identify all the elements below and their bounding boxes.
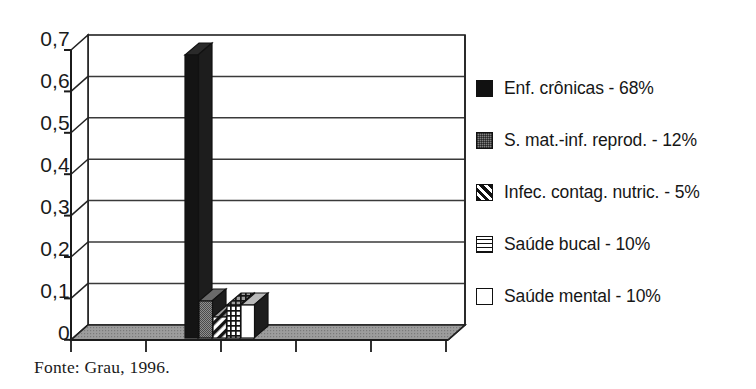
chart-root: 0,7 0,6 0,5 0,4 0,3 0,2 0,1 0 [0,0,756,389]
white-outline-swatch-icon [476,288,493,305]
legend-item-label: Enf. crônicas - 68% [504,78,654,99]
legend-item-label: Saúde bucal - 10% [504,234,650,255]
legend-item-label: S. mat.-inf. reprod. - 12% [504,130,697,151]
legend-item: Saúde mental - 10% [476,270,750,322]
legend-item: Enf. crônicas - 68% [476,62,750,114]
x-axis-ticks [71,340,446,352]
plot-floor [71,325,465,340]
legend-item: Saúde bucal - 10% [476,218,750,270]
plot-back-wall [88,35,465,325]
chart-legend: Enf. crônicas - 68% S. mat.-inf. reprod.… [476,62,750,322]
gray-stipple-swatch-icon [476,132,493,149]
source-caption: Fonte: Grau, 1996. [34,357,170,378]
solid-black-swatch-icon [476,80,493,97]
legend-item: Infec. contag. nutric. - 5% [476,166,750,218]
crosshatch-grid-swatch-icon [476,236,493,253]
x-axis [71,340,448,352]
plot-area [0,0,500,389]
legend-item: S. mat.-inf. reprod. - 12% [476,114,750,166]
legend-item-label: Saúde mental - 10% [504,286,661,307]
diagonal-hatch-swatch-icon [476,184,493,201]
legend-item-label: Infec. contag. nutric. - 5% [504,182,700,203]
plot-left-wall [64,35,88,340]
